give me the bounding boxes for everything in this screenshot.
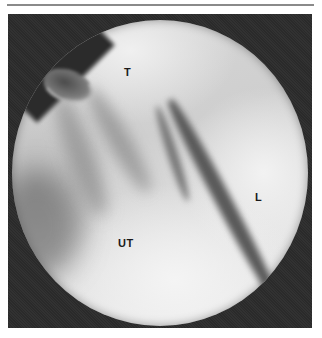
- tissue-fold-diagonal: [163, 96, 290, 315]
- top-rule-divider: [7, 4, 314, 6]
- label-l: L: [255, 191, 262, 203]
- endoscopic-view-circle: [12, 20, 308, 326]
- left-shadow-region: [12, 170, 82, 280]
- label-ut: UT: [118, 237, 134, 249]
- label-t: T: [124, 66, 131, 78]
- endoscopic-photo-frame: T L UT: [8, 14, 312, 328]
